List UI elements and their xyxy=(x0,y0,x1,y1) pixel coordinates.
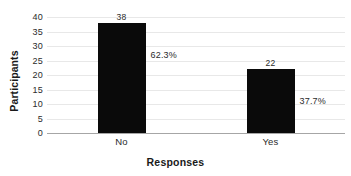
gridline xyxy=(47,90,345,91)
y-axis-title: Participants xyxy=(8,29,20,133)
y-axis-tick-labels: 0510152025303540 xyxy=(24,0,43,176)
y-axis-tick-label: 5 xyxy=(24,114,43,123)
bar-value-label: 38 xyxy=(97,13,147,22)
plot-area xyxy=(47,17,345,133)
bar-percent-label: 62.3% xyxy=(151,51,178,60)
y-axis-tick-label: 30 xyxy=(24,42,43,51)
gridline xyxy=(47,61,345,62)
y-axis-tick-label: 10 xyxy=(24,100,43,109)
bar-percent-label: 37.7% xyxy=(300,97,327,106)
x-axis-line xyxy=(47,133,345,134)
x-axis-tick-label: No xyxy=(92,137,152,147)
bar-chart: Participants 0510152025303540 NoYes 3862… xyxy=(0,0,351,176)
x-axis-tick-label: Yes xyxy=(241,137,301,147)
bar-value-label: 22 xyxy=(246,59,296,68)
gridline xyxy=(47,75,345,76)
y-axis-tick-label: 0 xyxy=(24,129,43,138)
bar xyxy=(247,69,295,133)
y-axis-tick-label: 15 xyxy=(24,85,43,94)
y-axis-tick-label: 20 xyxy=(24,71,43,80)
gridline xyxy=(47,32,345,33)
y-axis-tick-label: 35 xyxy=(24,27,43,36)
y-axis-tick-label: 25 xyxy=(24,56,43,65)
gridline xyxy=(47,46,345,47)
gridline xyxy=(47,119,345,120)
gridline xyxy=(47,17,345,18)
y-axis-tick-label: 40 xyxy=(24,13,43,22)
bar xyxy=(98,23,146,133)
x-axis-title: Responses xyxy=(0,156,351,168)
